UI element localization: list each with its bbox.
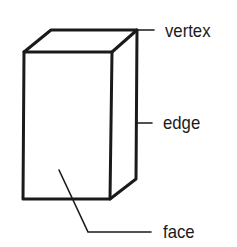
- vertex-label: vertex: [165, 21, 211, 40]
- face-label: face: [163, 222, 195, 241]
- prism-shape: [23, 30, 137, 199]
- front-face: [23, 52, 112, 199]
- leader-lines: [59, 30, 154, 232]
- top-face: [24, 30, 137, 52]
- edge-label: edge: [163, 113, 200, 132]
- side-face: [110, 30, 137, 199]
- prism-diagram: vertex edge face: [0, 0, 237, 247]
